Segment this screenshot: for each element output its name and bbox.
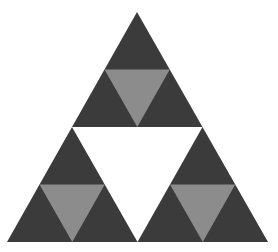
- sierpinski-diagram: [0, 0, 278, 252]
- triangle-layer: [7, 12, 268, 242]
